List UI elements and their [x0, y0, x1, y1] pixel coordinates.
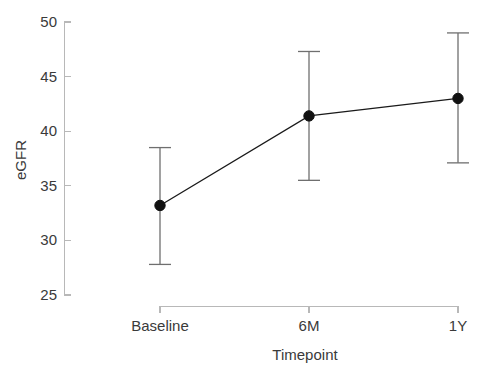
x-tick-label-baseline: Baseline [131, 317, 189, 334]
data-point-baseline [155, 200, 165, 210]
y-tick-label-50: 50 [40, 13, 57, 30]
y-axis-line [65, 22, 71, 295]
x-axis-title: Timepoint [272, 346, 338, 363]
y-tick-label-35: 35 [40, 177, 57, 194]
y-tick-label-30: 30 [40, 231, 57, 248]
x-tick-label-6m: 6M [299, 317, 320, 334]
data-point-6m [304, 111, 314, 121]
x-tick-label-1y: 1Y [449, 317, 467, 334]
data-point-1y [453, 93, 463, 103]
y-tick-label-25: 25 [40, 286, 57, 303]
y-tick-label-40: 40 [40, 122, 57, 139]
chart-plot: 50 45 40 35 30 25 eGFR Baseline 6M 1Y Ti… [0, 0, 489, 379]
data-series-layer [149, 33, 469, 265]
y-axis-title: eGFR [12, 140, 29, 180]
y-tick-label-45: 45 [40, 68, 57, 85]
chart-container: 50 45 40 35 30 25 eGFR Baseline 6M 1Y Ti… [0, 0, 489, 379]
